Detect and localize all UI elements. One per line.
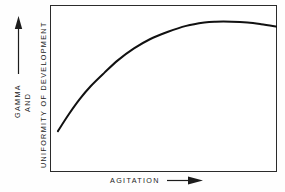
y-axis-up-arrow-icon bbox=[14, 16, 23, 74]
chart-figure: GAMMA AND UNIFORMITY OF DEVELOPMENT AGIT… bbox=[0, 0, 285, 192]
y-axis-label-uniformity-of-development: UNIFORMITY OF DEVELOPMENT bbox=[40, 21, 47, 168]
y-axis-label-gamma: GAMMA bbox=[14, 84, 21, 118]
y-axis-label-and: AND bbox=[24, 93, 31, 112]
plot-frame bbox=[50, 5, 277, 172]
x-axis-label-agitation: AGITATION bbox=[110, 177, 160, 184]
x-axis-right-arrow-icon bbox=[167, 176, 203, 185]
